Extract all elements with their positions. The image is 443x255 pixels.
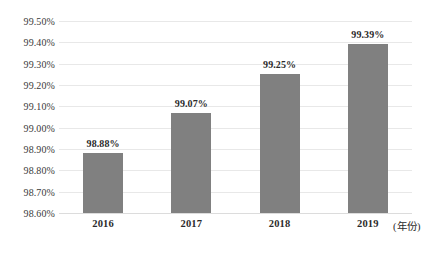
x-tick-label: 2016	[92, 218, 114, 229]
x-tick-label: 2018	[269, 218, 291, 229]
bar-slot: 99.39%	[348, 21, 388, 213]
y-tick-label: 99.40%	[3, 37, 55, 48]
y-axis: 99.50%99.40%99.30%99.20%99.10%99.00%98.9…	[0, 21, 55, 213]
plot-area: 98.88%99.07%99.25%99.39%	[59, 21, 412, 213]
y-tick-label: 99.50%	[3, 16, 55, 27]
y-tick-label: 98.80%	[3, 165, 55, 176]
x-tick-label: 2019	[357, 218, 379, 229]
y-tick-label: 98.60%	[3, 208, 55, 219]
bar-slot: 98.88%	[83, 21, 123, 213]
y-tick-label: 99.10%	[3, 101, 55, 112]
bar[interactable]	[83, 153, 123, 213]
bar-slot: 99.07%	[171, 21, 211, 213]
bar-value-label: 99.25%	[263, 59, 296, 70]
bar-chart: 99.50%99.40%99.30%99.20%99.10%99.00%98.9…	[0, 0, 443, 255]
x-axis-title: (年份)	[393, 218, 421, 233]
bar[interactable]	[260, 74, 300, 213]
gridline	[59, 213, 412, 214]
bar-value-label: 99.07%	[175, 98, 208, 109]
y-tick-label: 99.20%	[3, 80, 55, 91]
y-tick-label: 98.90%	[3, 144, 55, 155]
bar-value-label: 99.39%	[351, 29, 384, 40]
y-tick-label: 99.00%	[3, 122, 55, 133]
bar-value-label: 98.88%	[87, 138, 120, 149]
x-tick-label: 2017	[180, 218, 202, 229]
y-tick-label: 98.70%	[3, 186, 55, 197]
bar-slot: 99.25%	[260, 21, 300, 213]
bar[interactable]	[171, 113, 211, 213]
x-axis: 2016201720182019	[59, 218, 412, 238]
bar[interactable]	[348, 44, 388, 213]
y-tick-label: 99.30%	[3, 58, 55, 69]
